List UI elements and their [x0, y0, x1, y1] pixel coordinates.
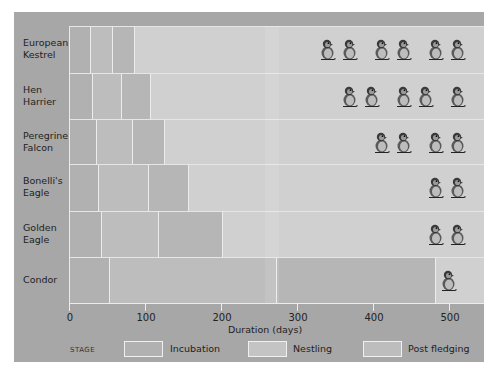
- bar-segment-nestling: [91, 27, 113, 73]
- row-label: Condor: [23, 274, 69, 286]
- bar-segment-incubation: [69, 212, 102, 257]
- bar-row: [69, 211, 484, 257]
- chick-group: [439, 268, 458, 292]
- chick-icon: [448, 130, 467, 154]
- x-tick: [145, 304, 146, 311]
- chick-icon: [448, 222, 467, 246]
- bar-segment-post-fledging: [149, 165, 189, 211]
- bar-segment-post-fledging: [133, 120, 165, 164]
- legend-swatch-incubation: [124, 341, 163, 357]
- bar-segment-incubation: [69, 27, 91, 73]
- row-label: GoldenEagle: [23, 222, 69, 246]
- row-label: EuropeanKestrel: [23, 37, 69, 61]
- x-tick: [221, 304, 222, 311]
- x-axis-line: [69, 303, 484, 304]
- bar-segment-incubation: [69, 165, 99, 211]
- x-tick: [449, 304, 450, 311]
- bar-segment-nestling: [110, 258, 277, 304]
- chick-icon: [394, 37, 413, 61]
- row-label: Bonelli'sEagle: [23, 175, 69, 199]
- chick-icon: [426, 222, 445, 246]
- bar-row: [69, 257, 484, 304]
- chick-icon: [448, 84, 467, 108]
- chick-icon: [340, 37, 359, 61]
- chick-icon: [448, 37, 467, 61]
- bar-segment-nestling: [93, 74, 122, 119]
- chick-icon: [426, 37, 445, 61]
- legend-label-incubation: Incubation: [170, 343, 220, 354]
- bar-segment-post-fledging: [122, 74, 151, 119]
- chick-icon: [416, 84, 435, 108]
- x-tick-label: 400: [364, 312, 383, 323]
- chick-icon: [426, 175, 445, 199]
- bar-segment-post-fledging: [113, 27, 135, 73]
- bar-segment-post-fledging: [159, 212, 224, 257]
- chick-icon: [439, 268, 458, 292]
- chick-group: [318, 37, 467, 61]
- bar-segment-incubation: [69, 120, 97, 164]
- chick-icon: [448, 175, 467, 199]
- chick-group: [340, 84, 467, 108]
- plot-area: [69, 26, 484, 304]
- bar-segment-nestling: [102, 212, 159, 257]
- bar-row: [69, 164, 484, 211]
- x-axis-label: Duration (days): [228, 324, 302, 335]
- chick-icon: [372, 130, 391, 154]
- bar-segment-incubation: [69, 258, 110, 304]
- legend-swatch-nestling: [248, 341, 287, 357]
- bar-segment-incubation: [69, 74, 93, 119]
- legend-label-nestling: Nestling: [293, 343, 332, 354]
- x-tick-label: 100: [136, 312, 155, 323]
- x-tick: [297, 304, 298, 311]
- chick-group: [426, 222, 467, 246]
- chick-icon: [394, 130, 413, 154]
- legend-swatch-post-fledging: [363, 341, 402, 357]
- bar-segment-nestling: [97, 120, 133, 164]
- legend-title: STAGE: [70, 346, 95, 354]
- chick-icon: [340, 84, 359, 108]
- bar-segment-post-fledging: [277, 258, 436, 304]
- chick-icon: [426, 130, 445, 154]
- legend-label-post-fledging: Post fledging: [408, 343, 469, 354]
- chick-icon: [318, 37, 337, 61]
- y-axis-line: [69, 26, 70, 304]
- bar-segment-nestling: [99, 165, 149, 211]
- x-tick-label: 200: [212, 312, 231, 323]
- row-label: HenHarrier: [23, 84, 69, 108]
- chick-icon: [362, 84, 381, 108]
- x-tick: [373, 304, 374, 311]
- chick-icon: [372, 37, 391, 61]
- x-tick: [69, 304, 70, 311]
- x-tick-label: 300: [288, 312, 307, 323]
- chick-icon: [394, 84, 413, 108]
- x-tick-label: 500: [440, 312, 459, 323]
- row-label: PeregrineFalcon: [23, 130, 69, 154]
- x-tick-label: 0: [67, 312, 73, 323]
- chick-group: [426, 175, 467, 199]
- chick-group: [372, 130, 467, 154]
